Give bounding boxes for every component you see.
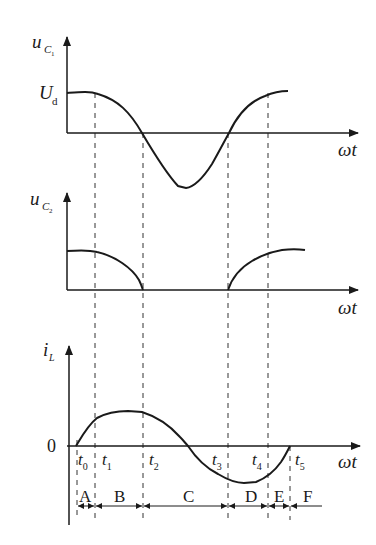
iL-origin-label: 0	[47, 436, 56, 456]
uc1-level-label-sub: d	[52, 95, 58, 107]
uc2-waveform-decay	[67, 250, 143, 290]
uc1-waveform	[67, 91, 288, 188]
time-label-t4: t4	[252, 450, 262, 472]
time-label-t0: t0	[78, 450, 88, 472]
plot-uc2: u C 2 ωt	[30, 188, 358, 318]
time-label-t1: t1	[102, 450, 112, 472]
uc1-x-label: ωt	[338, 139, 357, 160]
plot-uc1: u C 1 U d ωt	[32, 31, 358, 188]
interval-label-B: B	[114, 487, 125, 506]
plot-iL: i L 0 ωt t0 t1 t2 t3 t4 t5 A B C D E	[43, 339, 360, 525]
uc2-y-label-subsub: 2	[49, 207, 53, 215]
uc1-y-label-subsub: 1	[51, 50, 55, 58]
iL-x-label: ωt	[338, 451, 357, 472]
time-label-t5: t5	[295, 450, 305, 472]
interval-labels: A B C D E F	[79, 487, 312, 506]
iL-y-label-sub: L	[48, 352, 55, 363]
uc2-y-label: u	[30, 188, 40, 209]
iL-y-label: i	[43, 339, 48, 360]
interval-label-C: C	[183, 487, 194, 506]
time-marker-lines	[77, 93, 290, 522]
uc2-x-label: ωt	[338, 297, 357, 318]
uc1-y-label: u	[32, 31, 42, 52]
uc2-waveform-rise	[228, 249, 305, 290]
interval-label-D: D	[245, 487, 257, 506]
interval-label-F: F	[303, 487, 312, 506]
waveform-diagram: u C 1 U d ωt u C 2 ωt i L 0 ωt t0 t1 t2 …	[0, 0, 376, 545]
time-mark-labels: t0 t1 t2 t3 t4 t5	[78, 450, 305, 472]
iL-waveform	[76, 411, 290, 483]
time-label-t2: t2	[149, 450, 159, 472]
time-label-t3: t3	[212, 450, 222, 472]
interval-label-A: A	[79, 487, 92, 506]
interval-label-E: E	[274, 487, 284, 506]
